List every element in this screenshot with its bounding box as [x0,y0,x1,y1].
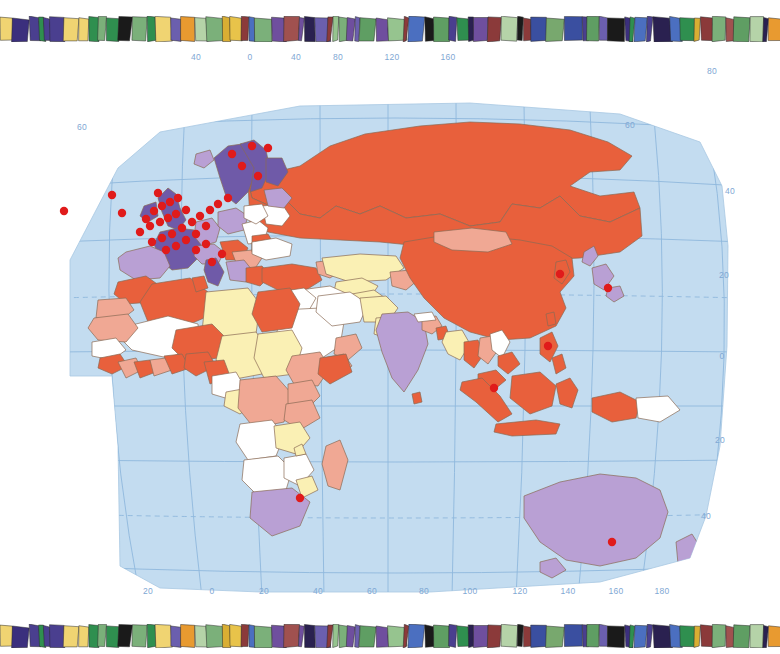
axis-tick-label: 180 [654,586,669,596]
site-marker [136,228,144,236]
axis-tick-label: 160 [440,52,455,62]
axis-tick-label: 80 [333,52,343,62]
mosaic-tile [63,626,79,647]
site-marker [608,538,616,546]
site-marker [196,212,204,220]
axis-tick-label: 0 [247,52,252,62]
site-marker [174,194,182,202]
mosaic-tile [376,18,389,41]
mosaic-tile [249,17,255,42]
axis-tick-label: 60 [625,120,635,130]
site-marker [264,144,272,152]
map-page: 4004080120160200204060801001201401601806… [0,0,780,654]
axis-tick-label: 40 [313,586,323,596]
mosaic-tile [0,17,13,40]
mosaic-tile [376,626,389,647]
mosaic-tile [768,626,780,647]
site-marker [604,284,612,292]
site-marker [154,189,162,197]
world-map-figure: 4004080120160200204060801001201401601806… [0,46,780,616]
site-marker [148,238,156,246]
mosaic-tile [434,17,450,42]
site-marker [168,230,176,238]
mosaic-tile [694,18,701,41]
mosaic-tile [587,16,600,41]
mosaic-tile [408,16,425,42]
mosaic-band-bottom [0,624,780,648]
mosaic-tile [473,18,488,42]
site-marker [166,198,174,206]
mosaic-tile [284,624,300,647]
mosaic-tile [206,17,225,42]
site-marker [158,202,166,210]
mosaic-tile [712,624,726,647]
mosaic-tile [181,17,195,42]
site-marker [254,172,262,180]
mosaic-tile [449,624,457,647]
axis-tick-label: 160 [608,586,623,596]
site-marker [208,258,216,266]
axis-tick-label: 120 [512,586,527,596]
site-marker [238,162,246,170]
site-marker [202,222,210,230]
site-marker [224,194,232,202]
site-marker [296,494,304,502]
mosaic-tile [599,16,607,40]
axis-tick-label: 80 [707,66,717,76]
mosaic-tile [222,624,230,648]
mosaic-tile [50,625,65,648]
mosaic-tile [333,16,339,41]
mosaic-tile [241,16,249,40]
mosaic-tile [434,625,450,648]
mosaic-tile [304,16,315,41]
site-marker [248,142,256,150]
site-marker [192,246,200,254]
mosaic-tile [712,16,726,41]
site-marker [556,270,564,278]
mosaic-tile [564,16,582,40]
mosaic-tile [230,16,243,40]
axis-tick-label: 60 [367,586,377,596]
mosaic-tile [546,18,565,42]
site-marker [178,224,186,232]
mosaic-tile [768,18,780,41]
mosaic-tile [599,624,607,646]
mosaic-tile [587,624,600,647]
mosaic-tile [132,625,147,647]
mosaic-tile [359,626,376,647]
site-marker [182,206,190,214]
mosaic-tile [487,17,501,42]
mosaic-tile [487,625,501,648]
mosaic-tile [473,626,488,648]
site-marker [490,384,498,392]
mosaic-tile [106,18,119,42]
site-marker [544,342,552,350]
mosaic-tile [181,625,195,648]
site-marker [150,207,158,215]
mosaic-tile [523,626,531,647]
mosaic-tile [517,624,523,646]
site-marker [218,250,226,258]
mosaic-tile [241,624,249,646]
mosaic-tile [408,624,425,648]
site-marker [156,218,164,226]
axis-tick-label: 140 [560,586,575,596]
site-marker [162,246,170,254]
mosaic-tile [531,17,547,41]
mosaic-tile [733,17,750,42]
mosaic-band-top [0,16,780,42]
mosaic-tile [147,16,156,42]
mosaic-tile [501,16,518,41]
site-marker [172,210,180,218]
axis-tick-label: 40 [725,186,735,196]
mosaic-tile [531,625,547,647]
site-marker [228,150,236,158]
mosaic-tile [89,17,99,42]
mosaic-tile [523,18,531,41]
mosaic-tile [171,626,181,647]
site-marker [158,234,166,242]
mosaic-tile [680,626,696,647]
mosaic-tile [106,626,119,648]
site-marker [118,209,126,217]
axis-tick-label: 60 [77,122,87,132]
